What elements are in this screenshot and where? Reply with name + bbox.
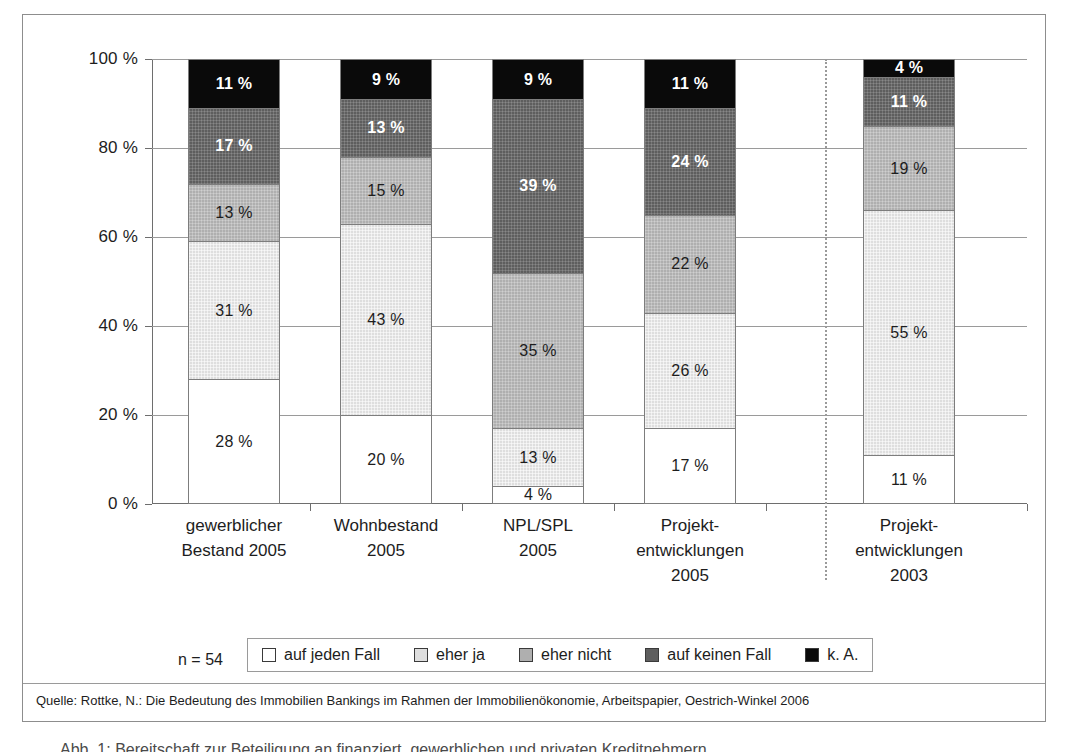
category-label-line: 2003 — [819, 563, 999, 588]
stacked-bar: 17 %26 %22 %24 %11 % — [644, 59, 736, 504]
chart-plot-area: 0 %20 %40 %60 %80 %100 % 28 %31 %13 %17 … — [152, 59, 1027, 504]
stacked-bar: 20 %43 %15 %13 %9 % — [340, 59, 432, 504]
legend-swatch-icon — [262, 648, 276, 662]
bar-segment: 19 % — [863, 126, 955, 211]
bar-segment-value-label: 13 % — [519, 449, 556, 467]
y-axis-tick-label: 40 % — [98, 316, 138, 336]
bar-segment-value-label: 15 % — [367, 182, 404, 200]
y-axis-tick-label: 60 % — [98, 227, 138, 247]
legend-item-label: k. A. — [827, 646, 858, 664]
bar-segment: 9 % — [492, 59, 584, 99]
bar-segment-value-label: 31 % — [215, 302, 252, 320]
figure-screenshot: 0 %20 %40 %60 %80 %100 % 28 %31 %13 %17 … — [0, 0, 1068, 752]
x-axis-category-label: Projekt-entwicklungen2003 — [819, 513, 999, 588]
x-axis-tick — [462, 504, 463, 511]
bar-segment: 4 % — [492, 486, 584, 504]
y-axis-tick — [145, 59, 152, 60]
bar-segment-value-label: 24 % — [671, 153, 708, 171]
bar-segment-value-label: 39 % — [519, 177, 556, 195]
bar-segment: 28 % — [188, 379, 280, 504]
bar-segment-value-label: 13 % — [215, 204, 252, 222]
bar-segment: 22 % — [644, 215, 736, 313]
bar-segment-value-label: 55 % — [890, 324, 927, 342]
x-axis-tick — [614, 504, 615, 511]
bar-segment-value-label: 13 % — [367, 119, 404, 137]
source-divider — [23, 683, 1045, 684]
bar-segment-value-label: 17 % — [671, 457, 708, 475]
bar-segment: 15 % — [340, 157, 432, 224]
category-label-line: 2005 — [600, 563, 780, 588]
legend-item-label: eher ja — [436, 646, 485, 664]
bar-segment: 13 % — [492, 428, 584, 486]
figure-frame: 0 %20 %40 %60 %80 %100 % 28 %31 %13 %17 … — [22, 14, 1046, 722]
bar-segment-value-label: 22 % — [671, 255, 708, 273]
y-axis-tick-label: 0 % — [108, 494, 138, 514]
legend-swatch-icon — [805, 648, 819, 662]
bar-segment-value-label: 4 % — [524, 486, 552, 504]
chart-legend: auf jeden Falleher jaeher nichtauf keine… — [247, 638, 873, 672]
y-axis-tick — [145, 148, 152, 149]
bar-segment: 55 % — [863, 210, 955, 455]
bar-segment: 43 % — [340, 224, 432, 415]
bar-segment-value-label: 43 % — [367, 311, 404, 329]
bar-segment-value-label: 9 % — [372, 71, 400, 89]
bar-segment: 11 % — [863, 455, 955, 504]
bar-segment: 11 % — [188, 59, 280, 108]
stacked-bar: 4 %13 %35 %39 %9 % — [492, 59, 584, 504]
y-axis-line — [152, 59, 153, 504]
legend-item-label: eher nicht — [541, 646, 611, 664]
x-axis-tick — [766, 504, 767, 511]
source-note: Quelle: Rottke, N.: Die Bedeutung des Im… — [36, 693, 809, 708]
bar-segment-value-label: 20 % — [367, 451, 404, 469]
bar-segment: 11 % — [644, 59, 736, 108]
legend-swatch-icon — [645, 648, 659, 662]
bar-segment: 20 % — [340, 415, 432, 504]
bar-segment: 39 % — [492, 99, 584, 273]
bar-segment: 17 % — [188, 108, 280, 184]
bar-segment: 13 % — [188, 184, 280, 242]
bar-segment: 31 % — [188, 241, 280, 379]
y-axis-tick-label: 80 % — [98, 138, 138, 158]
bar-segment-value-label: 11 % — [216, 75, 252, 93]
category-label-line: Projekt- — [819, 513, 999, 538]
bar-segment-value-label: 11 % — [891, 93, 927, 111]
y-axis-tick-label: 20 % — [98, 405, 138, 425]
bar-segment-value-label: 17 % — [215, 137, 252, 155]
legend-item[interactable]: eher nicht — [519, 646, 611, 664]
legend-item-label: auf jeden Fall — [284, 646, 380, 664]
bar-segment: 24 % — [644, 108, 736, 215]
bar-segment-value-label: 4 % — [895, 59, 923, 76]
y-axis-tick-label: 100 % — [89, 49, 138, 69]
x-axis-tick — [1027, 504, 1028, 511]
y-axis-tick — [145, 415, 152, 416]
category-label-line: entwicklungen — [819, 538, 999, 563]
y-axis-tick — [145, 504, 152, 505]
legend-item[interactable]: auf jeden Fall — [262, 646, 380, 664]
y-axis-tick — [145, 237, 152, 238]
x-axis-tick — [310, 504, 311, 511]
stacked-bar: 11 %55 %19 %11 %4 % — [863, 59, 955, 504]
bar-segment: 9 % — [340, 59, 432, 99]
legend-item[interactable]: eher ja — [414, 646, 485, 664]
bar-segment: 13 % — [340, 99, 432, 157]
y-axis-tick — [145, 326, 152, 327]
legend-item-label: auf keinen Fall — [667, 646, 771, 664]
bar-segment: 35 % — [492, 273, 584, 429]
bar-segment-value-label: 11 % — [672, 75, 708, 93]
group-separator-line — [825, 59, 827, 580]
figure-caption-cropped: Abb. 1: Bereitschaft zur Beteiligung an … — [60, 741, 707, 752]
bar-segment-value-label: 11 % — [891, 471, 927, 489]
bar-segment: 26 % — [644, 313, 736, 429]
legend-swatch-icon — [519, 648, 533, 662]
x-axis-category-label: Projekt-entwicklungen2005 — [600, 513, 780, 588]
bar-segment-value-label: 26 % — [671, 362, 708, 380]
legend-item[interactable]: auf keinen Fall — [645, 646, 771, 664]
bar-segment-value-label: 9 % — [524, 71, 552, 89]
bar-segment: 4 % — [863, 59, 955, 77]
sample-size-note: n = 54 — [178, 651, 223, 669]
bar-segment: 11 % — [863, 77, 955, 126]
stacked-bar: 28 %31 %13 %17 %11 % — [188, 59, 280, 504]
category-label-line: entwicklungen — [600, 538, 780, 563]
category-label-line: Projekt- — [600, 513, 780, 538]
legend-item[interactable]: k. A. — [805, 646, 858, 664]
